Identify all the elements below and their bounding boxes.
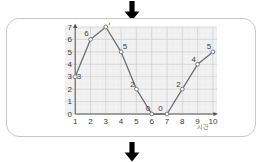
data-point-label: 5 — [207, 42, 212, 51]
data-point-marker — [165, 112, 169, 116]
y-tick-label: 0 — [68, 110, 73, 119]
data-point-marker — [89, 38, 93, 42]
x-axis-title: 시간 — [197, 122, 209, 131]
data-point-label: 0 — [158, 104, 163, 113]
chart-card: 0 1 2 3 4 5 6 7 1 2 3 4 5 6 7 — [6, 18, 256, 137]
data-point-marker — [135, 87, 139, 91]
data-point-label: 4 — [192, 55, 197, 64]
data-point-label: 6 — [84, 29, 89, 38]
line-chart: 0 1 2 3 4 5 6 7 1 2 3 4 5 6 7 — [59, 23, 221, 137]
data-point-label: 2 — [130, 80, 135, 89]
y-tick-label: 6 — [68, 35, 73, 44]
x-tick-label: 3 — [104, 117, 109, 126]
x-tick-label: 7 — [165, 117, 170, 126]
x-tick-label: 1 — [73, 117, 78, 126]
data-point-marker — [196, 62, 200, 66]
chart-canvas: 0 1 2 3 4 5 6 7 1 2 3 4 5 6 7 — [59, 23, 221, 137]
y-axis-arrowhead — [73, 24, 77, 29]
y-tick-label: 4 — [68, 60, 73, 69]
data-point-label: 3 — [77, 72, 82, 81]
y-tick-label: 1 — [68, 97, 73, 106]
flow-step-chart: 0 1 2 3 4 5 6 7 1 2 3 4 5 6 7 — [0, 0, 264, 162]
down-arrow-icon — [122, 142, 142, 162]
x-tick-label: 5 — [134, 117, 139, 126]
data-point-marker — [150, 112, 154, 116]
x-tick-label: 6 — [149, 117, 154, 126]
x-tick-label: 10 — [208, 117, 217, 126]
data-point-label: 0 — [146, 104, 151, 113]
y-tick-label: 5 — [68, 48, 73, 57]
y-tick-label: 2 — [68, 85, 73, 94]
data-point-label: 2 — [176, 80, 181, 89]
x-tick-label: 4 — [119, 117, 124, 126]
y-tick-label: 3 — [68, 72, 73, 81]
y-tick-label: 7 — [68, 23, 73, 32]
x-tick-label: 2 — [88, 117, 93, 126]
data-point-label: 7 — [107, 23, 112, 27]
data-point-marker — [211, 50, 215, 54]
data-point-label: 5 — [123, 42, 128, 51]
data-point-marker — [180, 87, 184, 91]
x-tick-label: 8 — [180, 117, 185, 126]
flow-arrow-bottom — [0, 141, 264, 162]
